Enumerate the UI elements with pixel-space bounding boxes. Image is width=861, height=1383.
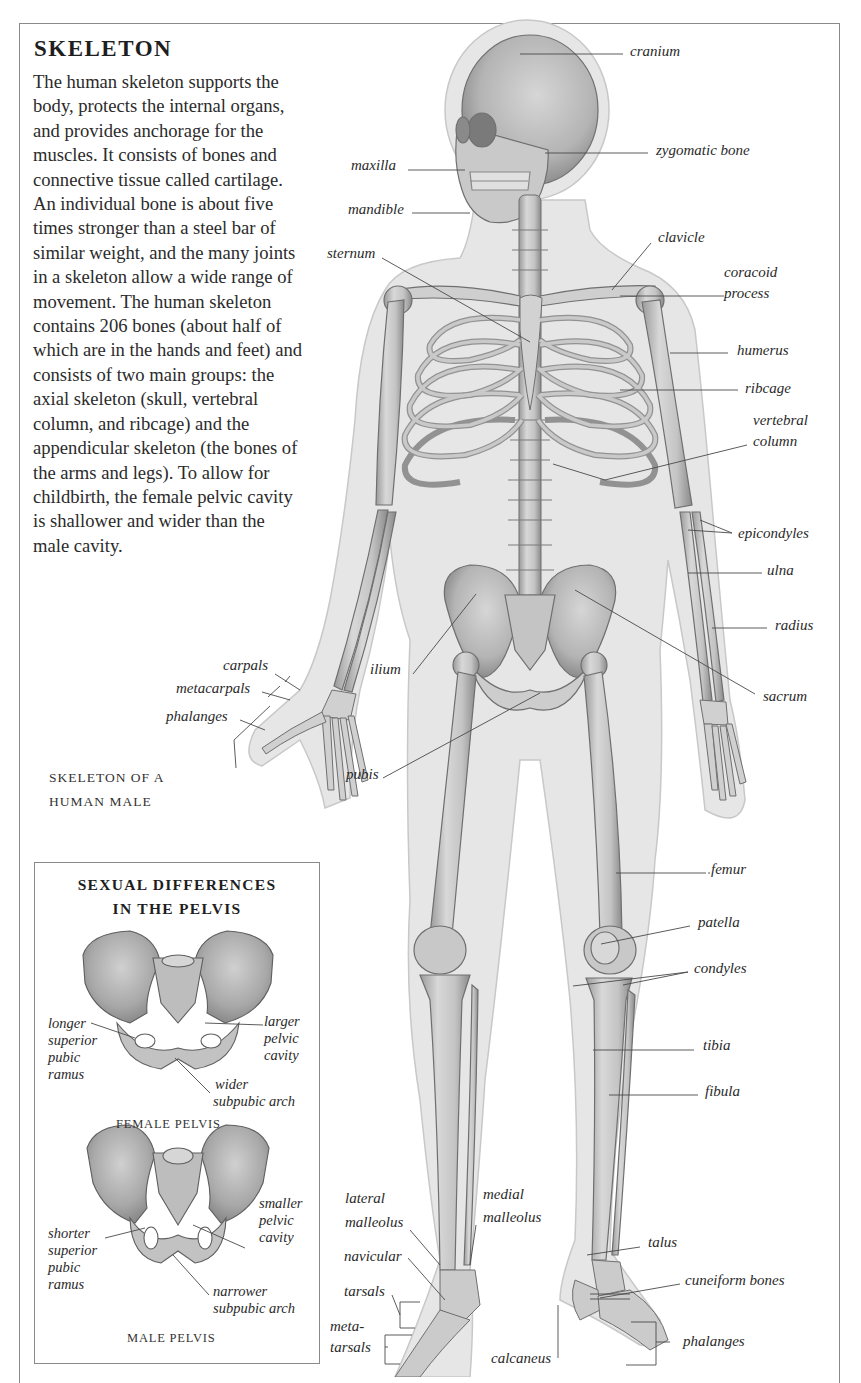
label-sacrum: sacrum [763, 688, 807, 705]
label-patella: patella [698, 914, 740, 931]
label-radius: radius [775, 617, 813, 634]
label-line: subpubic arch [213, 1093, 295, 1110]
label-calcaneus: calcaneus [491, 1350, 551, 1367]
label-ribcage: ribcage [745, 380, 791, 397]
male-label-pelvic-cavity: smaller pelvic cavity [259, 1195, 303, 1246]
figure-caption: SKELETON OF A HUMAN MALE [49, 766, 165, 814]
male-label-superior-pubic-ramus: shorter superior pubic ramus [48, 1225, 97, 1293]
label-line: ramus [48, 1066, 97, 1083]
label-fibula: fibula [705, 1083, 740, 1100]
label-navicular: navicular [344, 1248, 402, 1265]
label-line: larger [264, 1013, 300, 1030]
female-pelvis-caption: FEMALE PELVIS [116, 1117, 221, 1132]
female-label-subpubic-arch: wider subpubic arch [215, 1076, 295, 1110]
skull [456, 35, 598, 223]
male-pelvis-caption: MALE PELVIS [127, 1331, 216, 1346]
male-label-subpubic-arch: narrower subpubic arch [213, 1283, 295, 1317]
label-tibia: tibia [703, 1037, 731, 1054]
label-line: superior [48, 1032, 97, 1049]
label-condyles: condyles [694, 960, 746, 977]
label-line: ramus [48, 1276, 97, 1293]
label-line: narrower [213, 1283, 295, 1300]
label-coracoid-process-line1: coracoid [724, 264, 777, 281]
label-line: pubic [48, 1259, 97, 1276]
label-medial-malleolus-line2: malleolus [483, 1209, 541, 1226]
label-carpals: carpals [223, 657, 268, 674]
female-label-pelvic-cavity: larger pelvic cavity [264, 1013, 300, 1064]
figure-caption-line1: SKELETON OF A [49, 766, 165, 790]
label-ulna: ulna [767, 562, 794, 579]
label-metatarsals-line1: meta- [330, 1318, 364, 1335]
label-line: cavity [264, 1047, 300, 1064]
label-line: shorter [48, 1225, 97, 1242]
label-epicondyles: epicondyles [738, 525, 809, 542]
label-talus: talus [648, 1234, 677, 1251]
label-line: longer [48, 1015, 97, 1032]
female-label-superior-pubic-ramus: longer superior pubic ramus [48, 1015, 97, 1083]
label-line: pubic [48, 1049, 97, 1066]
label-clavicle: clavicle [658, 229, 705, 246]
label-femur: femur [711, 861, 746, 878]
label-metacarpals: metacarpals [176, 680, 250, 697]
label-mandible: mandible [348, 201, 404, 218]
label-maxilla: maxilla [351, 157, 396, 174]
label-lateral-malleolus-line1: lateral [345, 1190, 385, 1207]
male-pelvis [87, 1125, 269, 1263]
label-metatarsals-line2: tarsals [330, 1339, 371, 1356]
label-foot-phalanges: phalanges [683, 1333, 745, 1350]
female-pelvis [83, 931, 273, 1069]
label-hand-phalanges: phalanges [166, 708, 228, 725]
label-sternum: sternum [327, 245, 375, 262]
label-cranium: cranium [630, 43, 680, 60]
label-ilium: ilium [370, 661, 401, 678]
label-line: wider [215, 1076, 295, 1093]
label-line: subpubic arch [213, 1300, 295, 1317]
label-coracoid-process-line2: process [724, 285, 769, 302]
label-zygomatic-bone: zygomatic bone [656, 142, 750, 159]
label-line: pelvic [264, 1030, 300, 1047]
label-pubis: pubis [346, 766, 379, 783]
pelvis-differences-inset: SEXUAL DIFFERENCES IN THE PELVIS [34, 862, 320, 1364]
label-vertebral-column-line2: column [753, 433, 797, 450]
label-line: smaller [259, 1195, 303, 1212]
label-tarsals: tarsals [344, 1283, 385, 1300]
figure-caption-line2: HUMAN MALE [49, 790, 165, 814]
label-humerus: humerus [737, 342, 789, 359]
label-cuneiform-bones: cuneiform bones [685, 1272, 785, 1289]
label-vertebral-column-line1: vertebral [753, 412, 808, 429]
label-line: cavity [259, 1229, 303, 1246]
label-line: superior [48, 1242, 97, 1259]
label-line: pelvic [259, 1212, 303, 1229]
label-lateral-malleolus-line2: malleolus [345, 1214, 403, 1231]
label-medial-malleolus-line1: medial [483, 1186, 524, 1203]
